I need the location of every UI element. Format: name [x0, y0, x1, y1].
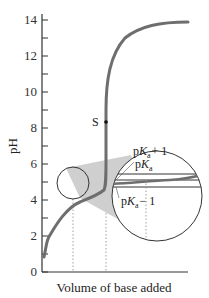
y-tick-label: 14: [24, 12, 38, 27]
titration-chart: 02468101214 pH Volume of base added S: [0, 0, 209, 298]
point-s-marker: [104, 120, 108, 124]
y-tick-label: 12: [24, 48, 37, 63]
y-tick-label: 10: [24, 84, 37, 99]
y-tick-label: 0: [31, 264, 38, 279]
y-tick-label: 8: [31, 120, 38, 135]
y-tick-label: 4: [31, 192, 38, 207]
point-s-label: S: [92, 115, 99, 129]
y-axis: 02468101214: [24, 12, 48, 279]
y-axis-title: pH: [5, 138, 20, 154]
y-tick-label: 6: [31, 156, 38, 171]
x-axis-title: Volume of base added: [57, 280, 172, 295]
y-tick-label: 2: [31, 228, 38, 243]
